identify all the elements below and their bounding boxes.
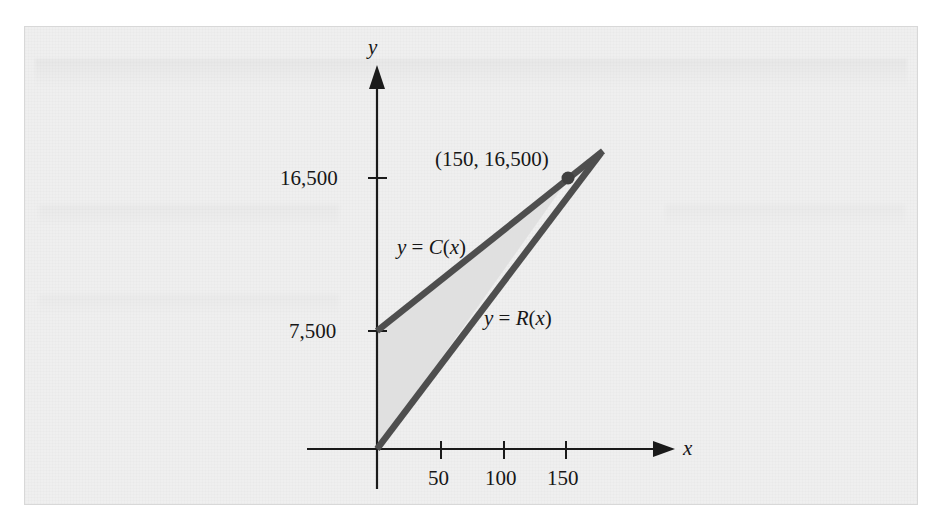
- plot-canvas: [25, 27, 918, 505]
- revenue-label-eq: =: [493, 306, 515, 330]
- break-even-point-marker: [562, 172, 575, 185]
- cost-label-open: (: [443, 235, 450, 259]
- x-axis-label: x: [683, 438, 692, 459]
- revenue-label-close: ): [545, 306, 552, 330]
- cost-label-lhs: y: [397, 235, 406, 259]
- y-tick-label-16500: 16,500: [280, 168, 338, 189]
- revenue-label-fn: R: [516, 306, 529, 330]
- figure-root: y x 16,500 7,500 50 100 150 y = C(x) y =…: [0, 0, 937, 530]
- cost-curve-label: y = C(x): [397, 237, 466, 258]
- cost-label-var: x: [450, 235, 459, 259]
- break-even-point-label: (150, 16,500): [435, 149, 549, 170]
- cost-label-close: ): [459, 235, 466, 259]
- x-axis-arrowhead: [653, 441, 675, 457]
- cost-label-eq: =: [406, 235, 428, 259]
- cost-label-fn: C: [429, 235, 443, 259]
- y-tick-label-7500: 7,500: [289, 321, 336, 342]
- revenue-label-lhs: y: [484, 306, 493, 330]
- y-axis-arrowhead: [369, 65, 385, 89]
- x-tick-label-100: 100: [485, 468, 517, 489]
- x-tick-label-50: 50: [428, 468, 449, 489]
- x-tick-label-150: 150: [547, 468, 579, 489]
- revenue-label-var: x: [536, 306, 545, 330]
- y-axis-label: y: [368, 37, 377, 58]
- revenue-curve-label: y = R(x): [484, 308, 552, 329]
- revenue-label-open: (: [529, 306, 536, 330]
- scanned-figure-panel: y x 16,500 7,500 50 100 150 y = C(x) y =…: [24, 26, 918, 505]
